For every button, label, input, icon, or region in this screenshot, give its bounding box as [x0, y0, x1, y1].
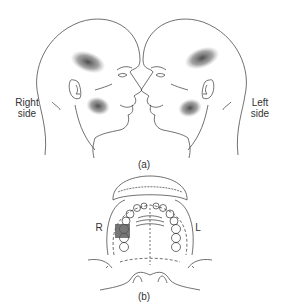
label-r: R	[93, 222, 105, 233]
pain-area-temporal-left	[182, 42, 223, 73]
right-side-label-line1: Right	[10, 97, 44, 108]
pain-area-right-molar	[115, 224, 130, 238]
left-side-label-line2: side	[245, 108, 275, 119]
diagram-illustration	[0, 0, 283, 307]
head-right-side	[37, 19, 142, 158]
pain-area-cheek-left	[176, 96, 204, 120]
pain-area-cheek-right	[84, 94, 112, 118]
left-side-label: Left side	[245, 97, 275, 119]
right-side-label-line2: side	[10, 108, 44, 119]
figure: Right side Left side (a) R L (b)	[0, 0, 283, 307]
right-side-label: Right side	[10, 97, 44, 119]
label-l: L	[192, 222, 204, 233]
left-side-label-line1: Left	[245, 97, 275, 108]
caption-a: (a)	[134, 159, 154, 170]
maxillary-arch	[88, 176, 212, 290]
caption-b: (b)	[134, 291, 154, 302]
head-left-side	[141, 19, 246, 158]
pain-area-temporal-right	[68, 46, 109, 77]
